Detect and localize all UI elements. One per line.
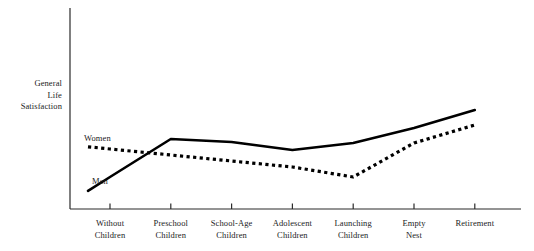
series-line-men [88, 110, 475, 191]
life-satisfaction-chart: General Life Satisfaction Women Men With… [0, 0, 534, 251]
chart-axes [70, 8, 521, 209]
chart-series-layer [88, 110, 475, 191]
x-axis-tick-label-line: Retirement [430, 218, 520, 230]
x-axis-tick-label: Retirement [430, 218, 520, 230]
x-axis-ticks [110, 204, 475, 210]
series-label-women: Women [84, 133, 111, 143]
series-line-women [88, 125, 475, 177]
x-axis-tick-label-line: Nest [369, 230, 459, 242]
chart-canvas [0, 0, 534, 251]
series-label-men: Men [92, 176, 108, 186]
